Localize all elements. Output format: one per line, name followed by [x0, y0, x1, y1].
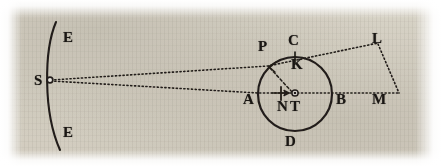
point-label-l: L — [372, 31, 382, 46]
scanned-figure: E S E P C L K A N T B M D — [0, 0, 441, 166]
point-label-a: A — [243, 92, 254, 107]
diagram-drawing — [0, 0, 441, 166]
point-label-m: M — [372, 92, 386, 107]
line-l-to-m — [378, 44, 399, 93]
point-label-k: K — [291, 57, 303, 72]
point-label-d: D — [285, 134, 296, 149]
point-label-b: B — [336, 92, 346, 107]
point-label-t: T — [290, 99, 300, 114]
point-label-c: C — [288, 33, 299, 48]
marker-point-t-dot — [294, 92, 297, 95]
point-label-p: P — [258, 39, 267, 54]
point-label-e-bottom: E — [63, 125, 73, 140]
point-label-e-top: E — [63, 30, 73, 45]
ray-s-to-l — [51, 43, 378, 80]
arrowhead-n-to-t — [284, 91, 289, 96]
ray-s-to-m — [51, 81, 399, 93]
point-label-n: N — [277, 99, 288, 114]
arc-ee — [47, 22, 60, 150]
point-label-s: S — [34, 73, 42, 88]
marker-point-s — [47, 77, 53, 83]
